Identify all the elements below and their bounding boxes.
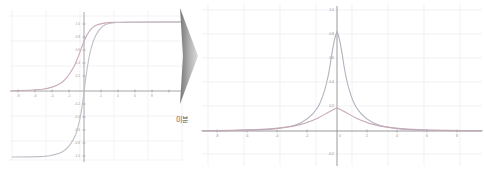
svg-text:0.2: 0.2 bbox=[76, 74, 81, 78]
svg-text:8: 8 bbox=[151, 94, 153, 98]
svg-text:1.0: 1.0 bbox=[329, 8, 334, 12]
right-chart-background bbox=[200, 0, 484, 170]
svg-text:-0.2: -0.2 bbox=[328, 152, 334, 156]
svg-text:0.4: 0.4 bbox=[329, 80, 334, 84]
left-chart-panel: 1.0 0.8 0.6 0.4 0.2 -0.2 -0.4 -0.6 -0.8 … bbox=[0, 0, 186, 170]
svg-text:-1.0: -1.0 bbox=[75, 154, 81, 158]
svg-text:0.6: 0.6 bbox=[76, 48, 81, 52]
svg-text:-4: -4 bbox=[51, 94, 54, 98]
svg-text:-8: -8 bbox=[215, 134, 218, 138]
svg-text:-2: -2 bbox=[68, 94, 71, 98]
svg-text:4: 4 bbox=[117, 94, 119, 98]
svg-text:-4: -4 bbox=[275, 134, 278, 138]
svg-text:0: 0 bbox=[339, 134, 341, 138]
svg-text:-8: -8 bbox=[17, 94, 20, 98]
derivative-chart: 1.0 0.8 0.6 0.4 0.2 -0.2 -8 -6 -4 -2 0 2… bbox=[200, 0, 484, 170]
svg-text:-0.2: -0.2 bbox=[75, 102, 81, 106]
svg-text:2: 2 bbox=[100, 94, 102, 98]
svg-text:0.8: 0.8 bbox=[329, 32, 334, 36]
svg-text:-0.8: -0.8 bbox=[75, 141, 81, 145]
activation-chart: 1.0 0.8 0.6 0.4 0.2 -0.2 -0.4 -0.6 -0.8 … bbox=[0, 0, 186, 170]
activation-derivative-figure: 1.0 0.8 0.6 0.4 0.2 -0.2 -0.4 -0.6 -0.8 … bbox=[0, 0, 484, 170]
derivative-label: 미분 bbox=[176, 116, 188, 124]
svg-text:4: 4 bbox=[396, 134, 398, 138]
svg-text:6: 6 bbox=[426, 134, 428, 138]
svg-text:1.0: 1.0 bbox=[76, 22, 81, 26]
svg-text:8: 8 bbox=[456, 134, 458, 138]
svg-text:-6: -6 bbox=[34, 94, 37, 98]
svg-text:0.2: 0.2 bbox=[329, 104, 334, 108]
left-chart-background bbox=[0, 0, 186, 170]
svg-text:-6: -6 bbox=[245, 134, 248, 138]
svg-text:2: 2 bbox=[366, 134, 368, 138]
svg-text:-2: -2 bbox=[305, 134, 308, 138]
svg-text:6: 6 bbox=[134, 94, 136, 98]
svg-text:0.8: 0.8 bbox=[76, 35, 81, 39]
derivative-arrow bbox=[180, 8, 198, 104]
svg-text:-0.4: -0.4 bbox=[75, 115, 81, 119]
right-chart-panel: 1.0 0.8 0.6 0.4 0.2 -0.2 -8 -6 -4 -2 0 2… bbox=[200, 0, 484, 170]
